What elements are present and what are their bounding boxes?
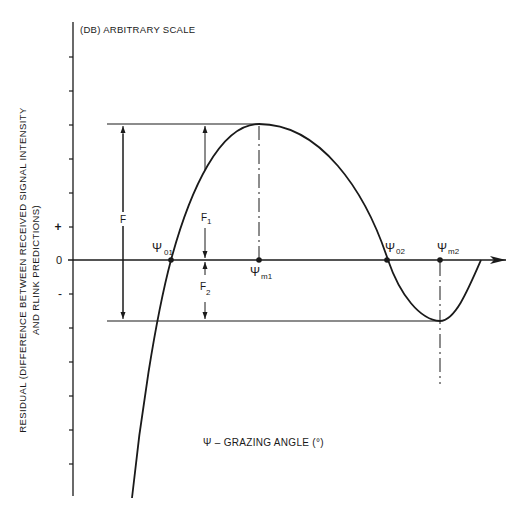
- svg-text:AND RLINK PREDICTIONS): AND RLINK PREDICTIONS): [30, 205, 41, 335]
- psi-02-label: Ψ02: [385, 241, 405, 256]
- tick-minus: -: [58, 287, 62, 301]
- psi-01-point: [168, 257, 174, 263]
- y-axis-label: RESIDUAL (DIFFERENCE BETWEEN RECEIVED SI…: [17, 107, 41, 433]
- svg-text:RESIDUAL (DIFFERENCE BETWEEN R: RESIDUAL (DIFFERENCE BETWEEN RECEIVED SI…: [17, 107, 28, 433]
- psi-m1-label-text: Ψm1: [250, 265, 273, 281]
- tick-zero: 0: [56, 254, 62, 266]
- x-axis-label: Ψ – GRAZING ANGLE (°): [203, 437, 324, 448]
- psi-01-label: Ψ01: [152, 241, 173, 257]
- psi-02-point: [384, 257, 390, 263]
- f2-label: F2: [200, 281, 211, 297]
- residual-diagram: + 0 - (DB) ARBITRARY SCALE RESIDUAL (DIF…: [0, 0, 521, 520]
- psi-m2-label: Ψm2: [437, 241, 460, 256]
- f-label: F: [120, 214, 126, 225]
- f1-label: F1: [201, 212, 212, 226]
- tick-plus: +: [54, 220, 61, 234]
- scale-title: (DB) ARBITRARY SCALE: [80, 24, 195, 35]
- psi-m2-point: [437, 257, 443, 263]
- psi-m1-point: [256, 257, 262, 263]
